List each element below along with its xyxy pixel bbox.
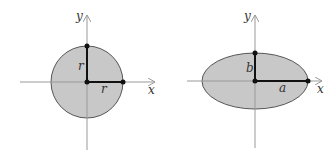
top-point: [85, 44, 90, 49]
top-point: [253, 51, 258, 56]
origin-point: [85, 80, 90, 85]
right-point: [121, 80, 126, 85]
ellipse-figure: y x b a: [187, 9, 324, 148]
horizontal-segment-label: a: [279, 81, 286, 95]
x-axis-label: x: [317, 82, 324, 96]
y-axis-label: y: [75, 9, 83, 23]
origin-point: [253, 79, 258, 84]
vertical-segment-label: b: [246, 61, 254, 75]
x-axis-label: x: [148, 83, 155, 97]
circle-figure: y x r r: [20, 9, 155, 150]
diagram: y x r r y x b a: [0, 0, 334, 164]
right-point: [306, 79, 311, 84]
y-axis-label: y: [243, 9, 251, 23]
